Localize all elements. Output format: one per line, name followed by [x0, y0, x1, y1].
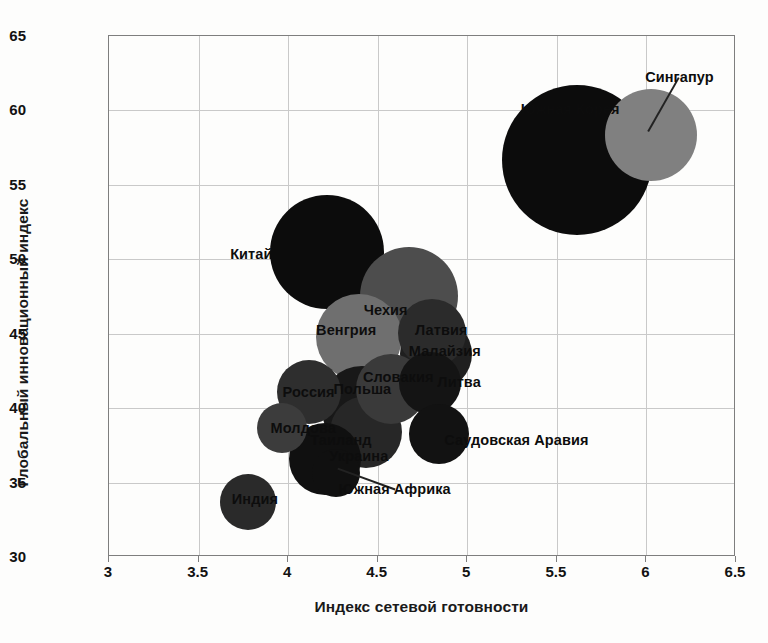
bubble-label: Украина: [329, 448, 388, 464]
x-axis-tick-label: 5.5: [526, 563, 586, 580]
x-axis-tick-mark: [735, 556, 736, 562]
x-axis-tick-label: 5: [436, 563, 496, 580]
x-axis-tick-label: 4: [257, 563, 317, 580]
x-axis-tick-mark: [645, 556, 646, 562]
bubble-label: Венгрия: [316, 322, 376, 338]
bubble-label: Польша: [333, 381, 391, 397]
bubble-label: Южная Африка: [339, 481, 451, 497]
bubble-label: Малайзия: [409, 343, 481, 359]
grid-line-vertical: [467, 36, 468, 555]
bubble-label: Чехия: [364, 302, 408, 318]
bubble-label: Литва: [437, 374, 480, 390]
y-axis-tick-label: 45: [0, 324, 26, 341]
x-axis-title: Индекс сетевой готовности: [108, 598, 735, 616]
y-axis-tick-label: 60: [0, 101, 26, 118]
x-axis-tick-label: 6.5: [705, 563, 765, 580]
x-axis-tick-mark: [377, 556, 378, 562]
bubble-label: Таиланд: [310, 432, 371, 448]
x-axis-tick-label: 4.5: [347, 563, 407, 580]
y-axis-tick-label: 65: [0, 27, 26, 44]
x-axis-tick-label: 3: [78, 563, 138, 580]
bubble-label: Китай: [230, 246, 272, 262]
x-axis-tick-mark: [287, 556, 288, 562]
x-axis-tick-mark: [198, 556, 199, 562]
y-axis-tick-label: 55: [0, 175, 26, 192]
x-axis-tick-label: 3.5: [168, 563, 228, 580]
x-axis-tick-label: 6: [615, 563, 675, 580]
x-axis-tick-mark: [466, 556, 467, 562]
bubble-label: Россия: [283, 384, 335, 400]
x-axis-tick-mark: [108, 556, 109, 562]
y-axis-title-text: Глобальный инновационный индекс: [14, 199, 32, 487]
bubble-label: Южная Корея: [521, 101, 620, 117]
bubble-label: Сингапур: [645, 69, 714, 85]
y-axis-tick-label: 40: [0, 399, 26, 416]
grid-line-vertical: [199, 36, 200, 555]
x-axis-tick-mark: [556, 556, 557, 562]
y-axis-tick-label: 35: [0, 473, 26, 490]
y-axis-tick-label: 50: [0, 250, 26, 267]
bubble-label: Саудовская Аравия: [444, 432, 588, 448]
chart-canvas: Глобальный инновационный индекс Индекс с…: [0, 0, 768, 643]
bubble-label: Латвия: [415, 322, 468, 338]
y-axis-tick-label: 30: [0, 548, 26, 565]
bubble-label: Индия: [232, 491, 278, 507]
